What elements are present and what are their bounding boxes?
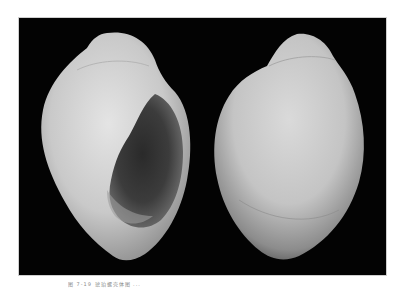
shell-apertural-view bbox=[37, 30, 197, 262]
shell-abapertural-view bbox=[209, 30, 369, 262]
figure-caption: 图 7-19 琥珀螺壳体图 ... bbox=[68, 281, 348, 289]
specimen-photo-plate bbox=[19, 18, 386, 275]
